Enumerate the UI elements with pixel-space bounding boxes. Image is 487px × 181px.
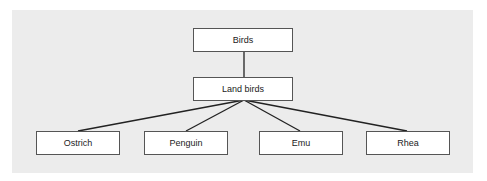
- node-penguin: Penguin: [144, 131, 228, 155]
- node-emu: Emu: [259, 131, 343, 155]
- node-ostrich: Ostrich: [36, 131, 120, 155]
- node-birds: Birds: [193, 28, 293, 52]
- node-rhea: Rhea: [366, 131, 450, 155]
- node-land-birds: Land birds: [193, 77, 293, 101]
